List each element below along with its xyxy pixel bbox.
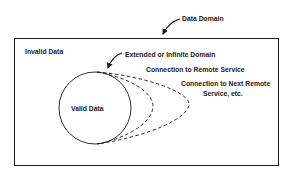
- next-remote-label-line1: Connection to Next Remote: [181, 79, 270, 88]
- data-domain-arrow-icon: [163, 19, 180, 34]
- valid-data-label: Valid Data: [71, 104, 104, 113]
- invalid-data-label: Invalid Data: [25, 47, 63, 56]
- extended-domain-label: Extended or Infinite Domain: [125, 50, 215, 59]
- next-remote-service-connection: [97, 72, 189, 144]
- data-domain-label: Data Domain: [182, 14, 224, 23]
- extended-domain-arrow-icon: [108, 53, 122, 68]
- remote-service-label: Connection to Remote Service: [146, 65, 245, 74]
- next-remote-label-line2: Service, etc.: [203, 89, 243, 98]
